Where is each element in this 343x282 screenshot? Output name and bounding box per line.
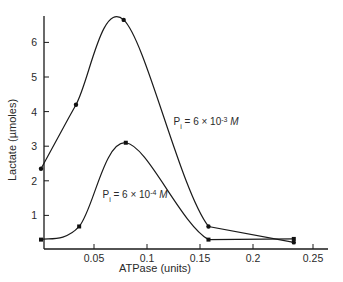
y-tick-label: 4 xyxy=(31,106,37,118)
y-ticks: 123456 xyxy=(31,36,49,221)
series-line-0 xyxy=(41,17,294,243)
series-markers xyxy=(39,18,296,245)
data-point-circle xyxy=(39,166,43,170)
data-point-square xyxy=(39,238,43,242)
lactate-vs-atpase-chart: 0.050.10.150.20.25 123456 Pi = 6 × 10-3 … xyxy=(0,0,343,282)
y-tick-label: 6 xyxy=(31,36,37,48)
series-curves xyxy=(41,17,294,243)
data-point-square xyxy=(206,238,210,242)
x-tick-label: 0.25 xyxy=(303,252,324,264)
y-tick-label: 2 xyxy=(31,175,37,187)
y-tick-label: 5 xyxy=(31,71,37,83)
data-point-square xyxy=(124,141,128,145)
data-point-square xyxy=(292,237,296,241)
y-axis-title: Lactate (µmoles) xyxy=(6,99,18,181)
x-ticks: 0.050.10.150.20.25 xyxy=(84,244,324,264)
series-annotations: Pi = 6 × 10-3 MPi = 6 × 10-4 M xyxy=(102,116,239,203)
series-annotation: Pi = 6 × 10-4 M xyxy=(102,189,168,203)
data-point-circle xyxy=(121,18,125,22)
x-axis-title: ATPase (units) xyxy=(119,262,191,274)
data-point-square xyxy=(77,224,81,228)
data-point-circle xyxy=(74,102,78,106)
data-point-circle xyxy=(206,224,210,228)
series-annotation: Pi = 6 × 10-3 M xyxy=(174,116,240,130)
y-tick-label: 1 xyxy=(31,209,37,221)
x-tick-label: 0.15 xyxy=(190,252,211,264)
y-tick-label: 3 xyxy=(31,140,37,152)
x-tick-label: 0.2 xyxy=(246,252,261,264)
x-tick-label: 0.05 xyxy=(84,252,105,264)
